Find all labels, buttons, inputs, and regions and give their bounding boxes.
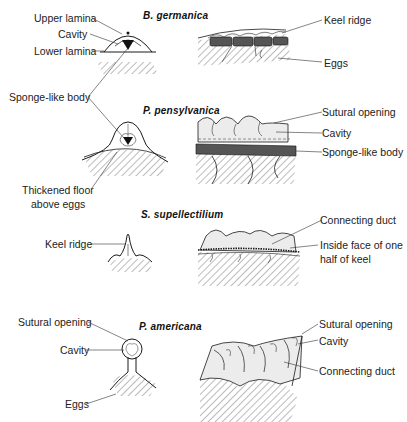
p-pensylvanica-cross-section (82, 122, 168, 176)
label-thickened-floor: Thickened floor (22, 184, 94, 196)
b-germanica-cross-section (97, 32, 158, 75)
p-pensylvanica-side-view (196, 116, 296, 184)
label-cavity: Cavity (58, 28, 87, 40)
label-cavity: Cavity (60, 344, 89, 356)
label-sponge-like-body: Sponge-like body (9, 91, 90, 103)
p-americana-side-view (200, 336, 302, 422)
b-germanica-side-view (198, 29, 290, 66)
label-keel-ridge: Keel ridge (324, 14, 371, 26)
label-keel-ridge: Keel ridge (45, 238, 92, 250)
label-cavity: Cavity (322, 127, 351, 139)
species-title-b-germanica: B. germanica (143, 10, 208, 21)
label-sutural-opening: Sutural opening (18, 316, 92, 328)
label-eggs: Eggs (65, 398, 89, 410)
species-title-p-pensylvanica: P. pensylvanica (143, 105, 220, 116)
label-sutural-opening: Sutural opening (322, 106, 396, 118)
p-americana-cross-section (110, 339, 156, 396)
label-above-eggs: above eggs (31, 198, 85, 210)
label-connecting-duct: Connecting duct (320, 214, 396, 226)
label-upper-lamina: Upper lamina (34, 12, 96, 24)
s-supellectilium-cross-section (108, 234, 152, 272)
s-supellectilium-side-view (198, 230, 300, 286)
label-half-of-keel: half of keel (320, 253, 371, 265)
species-title-p-americana: P. americana (139, 321, 202, 332)
label-sutural-opening-right: Sutural opening (319, 318, 393, 330)
label-sponge-like-body: Sponge-like body (322, 146, 403, 158)
label-eggs: Eggs (324, 57, 348, 69)
label-lower-lamina: Lower lamina (34, 45, 96, 57)
label-inside-face: Inside face of one (320, 239, 403, 251)
species-title-s-supellectilium: S. supellectilium (141, 209, 223, 220)
label-connecting-duct: Connecting duct (319, 365, 395, 377)
label-cavity-right: Cavity (319, 335, 348, 347)
